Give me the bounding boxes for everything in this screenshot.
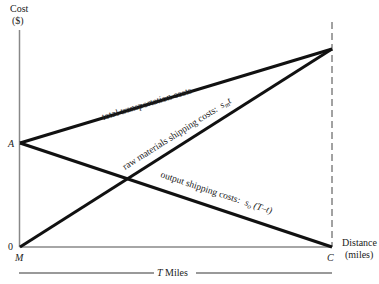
transport-cost-diagram: Cost ($) Distance (miles) 0 A M C T Mile… <box>0 0 379 284</box>
y-axis-unit: ($) <box>12 15 24 27</box>
origin-label: 0 <box>8 241 13 252</box>
point-m-label: M <box>14 252 24 263</box>
output-shipping-line <box>20 143 332 247</box>
point-a-label: A <box>7 138 15 149</box>
x-axis-label: Distance <box>342 237 378 248</box>
span-label: T Miles <box>157 267 188 278</box>
total-cost-label: total transportation costs <box>101 85 194 122</box>
point-c-label: C <box>327 252 334 263</box>
x-axis-unit: (miles) <box>345 249 373 261</box>
raw-materials-line <box>20 49 332 247</box>
y-axis-label: Cost <box>10 3 29 14</box>
